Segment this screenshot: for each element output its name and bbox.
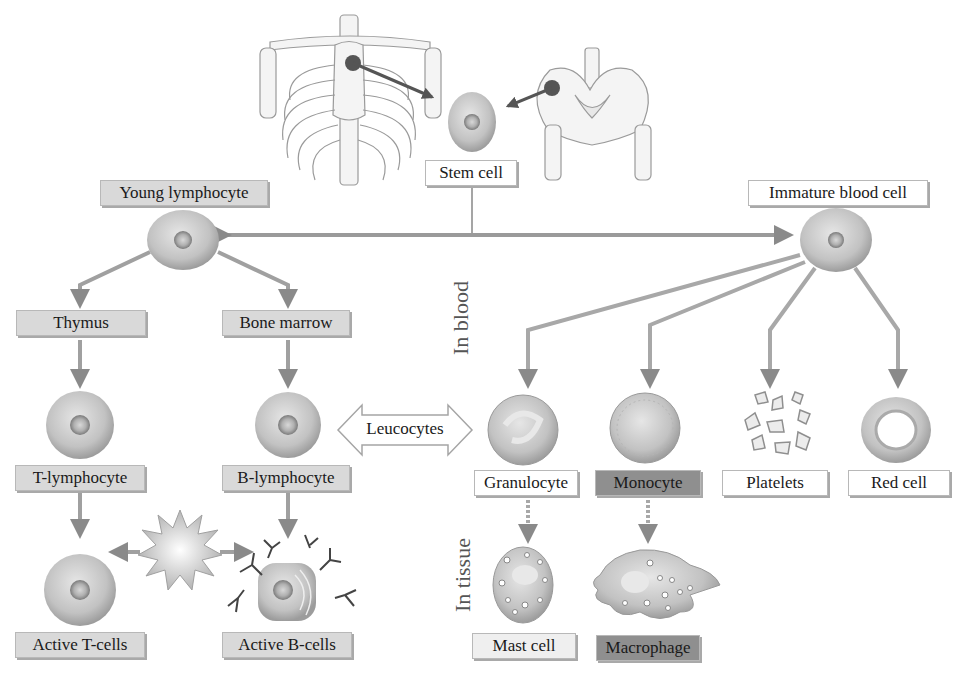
stem-cell-label: Stem cell [425, 160, 517, 186]
monocyte-label: Monocyte [595, 470, 701, 496]
t-lymphocyte-graphic [46, 391, 114, 459]
red-cell-label: Red cell [848, 470, 950, 496]
t-lymphocyte-label: T-lymphocyte [15, 465, 145, 491]
in-tissue-label: In tissue [450, 538, 476, 612]
red-cell-graphic [861, 397, 931, 463]
macrophage-graphic [593, 550, 720, 619]
young-lymphocyte-label: Young lymphocyte [100, 180, 268, 206]
thymus-label: Thymus [16, 310, 146, 336]
active-t-cells-label: Active T-cells [15, 632, 145, 658]
platelets-label: Platelets [722, 470, 828, 496]
granulocyte-graphic [488, 395, 558, 465]
diagram-graphics [0, 0, 957, 678]
macrophage-label: Macrophage [596, 635, 700, 661]
active-t-cell-graphic [44, 554, 116, 626]
pelvis-illustration [537, 48, 651, 180]
bone-marrow-label: Bone marrow [222, 310, 350, 336]
granulocyte-label: Granulocyte [474, 470, 578, 496]
leucocytes-label: Leucocytes [362, 419, 448, 439]
antigen-star [112, 510, 250, 590]
monocyte-graphic [610, 393, 680, 463]
b-lymphocyte-label: B-lymphocyte [222, 465, 350, 491]
platelets-graphic [745, 392, 810, 454]
mast-cell-label: Mast cell [472, 633, 576, 659]
b-lymphocyte-graphic [255, 392, 321, 458]
blood-cell-lineage-diagram: Stem cell Young lymphocyte Immature bloo… [0, 0, 957, 678]
immature-blood-cell-label: Immature blood cell [748, 180, 928, 206]
mast-cell-graphic [493, 547, 553, 623]
in-blood-label: In blood [448, 281, 474, 355]
active-b-cells-label: Active B-cells [222, 632, 352, 658]
young-lymphocyte-graphic [147, 210, 219, 270]
ribcage-illustration [260, 15, 441, 185]
stem-cell-graphic [448, 92, 496, 152]
active-b-cell-graphic [258, 563, 316, 621]
immature-blood-cell-graphic [800, 208, 872, 272]
